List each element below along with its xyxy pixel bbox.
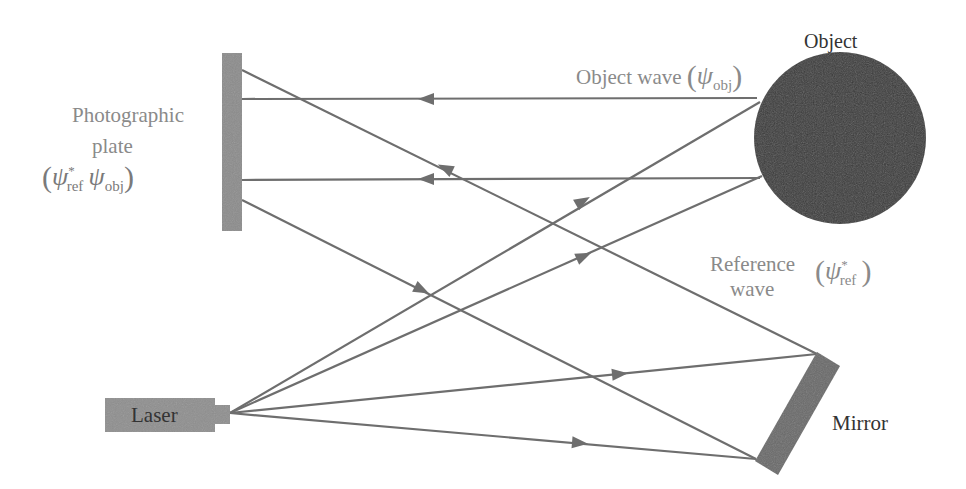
obj-subscript: obj <box>713 77 732 93</box>
arrowhead-icon <box>574 247 593 264</box>
conjugate-star: * <box>841 257 848 272</box>
object-title-label: Object <box>804 31 857 51</box>
arrowhead-icon <box>418 173 434 185</box>
open-paren: ( <box>815 254 825 287</box>
mirror <box>755 352 840 475</box>
beam-arrowheads <box>412 93 628 450</box>
reference-wave-label-line2: wave <box>730 279 774 300</box>
beam-laser-to-object-lower <box>230 176 762 413</box>
mirror-label: Mirror <box>832 413 888 434</box>
reference-wave-label-line1: Reference <box>710 254 795 275</box>
beam-object-wave-lower <box>242 178 760 180</box>
photographic-plate-formula: (ψ*ref ψobj) <box>42 162 134 194</box>
open-paren: ( <box>687 59 697 92</box>
psi-symbol: ψ <box>697 61 713 90</box>
photographic-plate <box>222 53 242 231</box>
open-paren: ( <box>42 160 52 193</box>
close-paren: ) <box>732 59 742 92</box>
laser-label: Laser <box>131 405 178 426</box>
beam-reference-to-plate <box>242 70 817 354</box>
object-wave-text: Object wave <box>576 65 682 89</box>
obj-subscript: obj <box>105 178 124 194</box>
psi-obj-symbol: ψ <box>89 162 105 191</box>
beam-object-wave-upper <box>242 98 757 99</box>
beam-laser-to-object-upper <box>230 102 760 413</box>
arrowhead-icon <box>418 93 434 105</box>
arrowhead-icon <box>572 436 589 449</box>
object-sphere <box>754 52 926 224</box>
laser-nozzle <box>215 405 230 424</box>
close-paren: ) <box>124 160 134 193</box>
conjugate-star: * <box>68 163 75 178</box>
photographic-plate-label-line2: plate <box>92 136 133 157</box>
reference-wave-formula: (ψ*ref ) <box>815 256 872 288</box>
photographic-plate-label-line1: Photographic <box>72 105 184 126</box>
close-paren: ) <box>862 254 872 287</box>
object-wave-label: Object wave (ψobj) <box>576 61 742 93</box>
beam-laser-to-mirror-upper <box>230 354 817 413</box>
ref-subscript: ref <box>67 178 84 194</box>
ref-subscript: ref <box>840 272 857 288</box>
arrowhead-icon <box>611 367 628 381</box>
